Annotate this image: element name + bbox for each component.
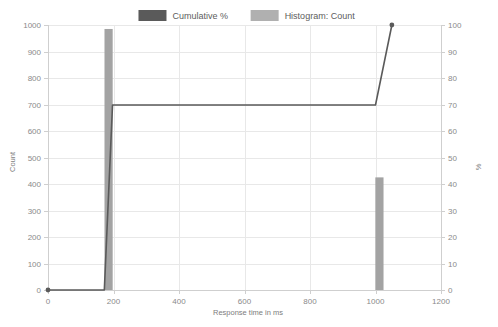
x-axis-tick-label: 1000	[367, 297, 385, 306]
y-axis-left-tick-label: 600	[28, 127, 42, 136]
y-axis-left-tick-label: 900	[28, 48, 42, 57]
y-axis-right-title: %	[474, 163, 483, 170]
y-axis-left-title: Count	[8, 151, 17, 172]
y-axis-right-tick-label: 30	[448, 207, 457, 216]
y-axis-right-tick-label: 10	[448, 260, 457, 269]
y-axis-right-tick-label: 80	[448, 74, 457, 83]
cumulative-line-marker	[46, 288, 51, 293]
y-axis-left-tick-label: 700	[28, 101, 42, 110]
y-axis-right-tick-label: 100	[448, 21, 462, 30]
x-axis-tick-label: 600	[238, 297, 252, 306]
x-axis-title: Response time in ms	[213, 308, 283, 317]
y-axis-right-tick-label: 90	[448, 48, 457, 57]
y-axis-left-tick-label: 400	[28, 180, 42, 189]
plot-background	[0, 0, 498, 327]
y-axis-left-tick-label: 500	[28, 154, 42, 163]
legend-item[interactable]: Histogram: Count	[251, 10, 356, 21]
legend-swatch	[251, 10, 279, 21]
x-axis-tick-label: 1200	[432, 297, 450, 306]
y-axis-left-tick-label: 300	[28, 207, 42, 216]
chart-container: 01002003004005006007008009001000 0102030…	[0, 0, 498, 327]
x-axis-tick-label: 400	[172, 297, 186, 306]
y-axis-left-tick-label: 100	[28, 260, 42, 269]
y-axis-left-tick-label: 800	[28, 74, 42, 83]
cumulative-line-marker	[389, 23, 394, 28]
y-axis-right-tick-label: 70	[448, 101, 457, 110]
y-axis-left-tick-label: 1000	[23, 21, 41, 30]
x-axis-tick-label: 200	[107, 297, 121, 306]
y-axis-right-tick-label: 20	[448, 233, 457, 242]
y-axis-right-tick-label: 50	[448, 154, 457, 163]
legend-swatch	[138, 10, 166, 21]
legend-item[interactable]: Cumulative %	[138, 10, 228, 21]
x-axis-tick-label: 800	[303, 297, 317, 306]
legend-label: Cumulative %	[172, 11, 228, 21]
pareto-chart: 01002003004005006007008009001000 0102030…	[0, 0, 498, 327]
y-axis-right-tick-label: 40	[448, 180, 457, 189]
y-axis-left-tick-label: 0	[37, 286, 42, 295]
y-axis-left-tick-label: 200	[28, 233, 42, 242]
y-axis-right-tick-label: 0	[448, 286, 453, 295]
histogram-bar	[375, 177, 383, 290]
x-axis-tick-label: 0	[46, 297, 51, 306]
y-axis-right-tick-label: 60	[448, 127, 457, 136]
legend-label: Histogram: Count	[285, 11, 356, 21]
